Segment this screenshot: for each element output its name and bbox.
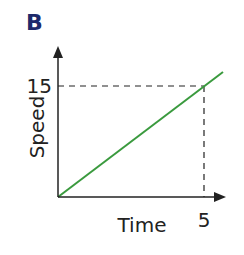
x-tick-label: 5 (198, 208, 211, 232)
y-axis-arrow-icon (53, 46, 63, 58)
speed-time-chart: 15 5 Time Speed (0, 0, 244, 255)
y-tick-label: 15 (27, 74, 52, 98)
y-axis-label: Speed (25, 96, 49, 159)
speed-line (58, 72, 223, 197)
x-axis-arrow-icon (214, 192, 226, 202)
x-axis-label: Time (117, 213, 167, 237)
